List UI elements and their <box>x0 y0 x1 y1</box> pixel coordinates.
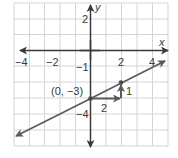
y-tick-label: −4 <box>76 108 89 120</box>
y-intercept-point <box>88 96 93 101</box>
x-axis-label: x <box>158 36 165 48</box>
x-tick-label: −4 <box>15 56 28 68</box>
rise-label: 1 <box>126 85 132 97</box>
y-tick-label: −1 <box>76 61 89 73</box>
coordinate-plane: x y −4 −2 2 4 2 −1 −4 (0, −3) 2 1 <box>0 0 178 158</box>
graph-line <box>16 114 60 136</box>
intercept-label: (0, −3) <box>51 85 83 97</box>
y-tick-label: 2 <box>82 13 88 25</box>
x-tick-label: 2 <box>118 56 124 68</box>
x-tick-label: −2 <box>46 56 59 68</box>
second-point <box>119 80 124 85</box>
run-label: 2 <box>101 102 107 114</box>
